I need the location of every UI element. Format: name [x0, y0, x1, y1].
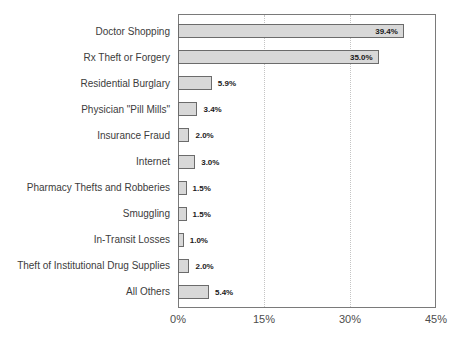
category-label: In-Transit Losses	[0, 234, 178, 245]
category-label: Internet	[0, 156, 178, 167]
chart-row: Insurance Fraud2.0%	[0, 122, 436, 148]
bar	[178, 76, 212, 90]
chart-row: Residential Burglary5.9%	[0, 70, 436, 96]
x-tick-label: 0%	[170, 313, 186, 325]
bar	[178, 181, 187, 195]
chart-row: Smuggling1.5%	[0, 201, 436, 227]
value-label: 1.5%	[193, 209, 211, 218]
category-label: Insurance Fraud	[0, 130, 178, 141]
chart-row: Physician "Pill Mills"3.4%	[0, 96, 436, 122]
category-label: Physician "Pill Mills"	[0, 104, 178, 115]
bar-track: 2.0%	[178, 122, 436, 148]
category-label: All Others	[0, 286, 178, 297]
bar	[178, 259, 189, 273]
category-label: Pharmacy Thefts and Robberies	[0, 182, 178, 193]
value-label: 39.4%	[375, 27, 398, 36]
value-label: 35.0%	[350, 53, 373, 62]
value-label: 1.5%	[193, 183, 211, 192]
x-axis: 0%15%30%45%	[178, 313, 436, 329]
bar	[178, 233, 184, 247]
x-tick-label: 15%	[253, 313, 275, 325]
chart-row: Internet3.0%	[0, 148, 436, 174]
chart-row: Rx Theft or Forgery35.0%	[0, 44, 436, 70]
bar-track: 3.4%	[178, 96, 436, 122]
bar-track: 1.5%	[178, 201, 436, 227]
chart-row: Theft of Institutional Drug Supplies2.0%	[0, 253, 436, 279]
category-label: Theft of Institutional Drug Supplies	[0, 260, 178, 271]
bar	[178, 285, 209, 299]
bar-track: 2.0%	[178, 253, 436, 279]
chart-row: Doctor Shopping39.4%	[0, 18, 436, 44]
bar-track: 3.0%	[178, 148, 436, 174]
category-label: Rx Theft or Forgery	[0, 52, 178, 63]
bar-track: 1.0%	[178, 227, 436, 253]
value-label: 2.0%	[195, 131, 213, 140]
bar-chart-figure: Doctor Shopping39.4%Rx Theft or Forgery3…	[0, 0, 462, 341]
category-label: Smuggling	[0, 208, 178, 219]
bar-track: 1.5%	[178, 175, 436, 201]
chart-row: Pharmacy Thefts and Robberies1.5%	[0, 175, 436, 201]
category-label: Residential Burglary	[0, 78, 178, 89]
value-label: 1.0%	[190, 235, 208, 244]
bar: 35.0%	[178, 50, 379, 64]
chart-row: In-Transit Losses1.0%	[0, 227, 436, 253]
value-label: 3.4%	[203, 105, 221, 114]
chart-row: All Others5.4%	[0, 279, 436, 305]
value-label: 3.0%	[201, 157, 219, 166]
bar-track: 5.9%	[178, 70, 436, 96]
bar-track: 35.0%	[178, 44, 436, 70]
value-label: 5.4%	[215, 287, 233, 296]
bar: 39.4%	[178, 24, 404, 38]
bar	[178, 128, 189, 142]
category-label: Doctor Shopping	[0, 26, 178, 37]
chart-rows: Doctor Shopping39.4%Rx Theft or Forgery3…	[0, 18, 436, 305]
x-tick-label: 30%	[339, 313, 361, 325]
bar	[178, 207, 187, 221]
value-label: 2.0%	[195, 261, 213, 270]
x-tick-label: 45%	[425, 313, 447, 325]
bar	[178, 155, 195, 169]
bar-track: 5.4%	[178, 279, 436, 305]
bar-track: 39.4%	[178, 18, 436, 44]
bar	[178, 102, 197, 116]
value-label: 5.9%	[218, 79, 236, 88]
